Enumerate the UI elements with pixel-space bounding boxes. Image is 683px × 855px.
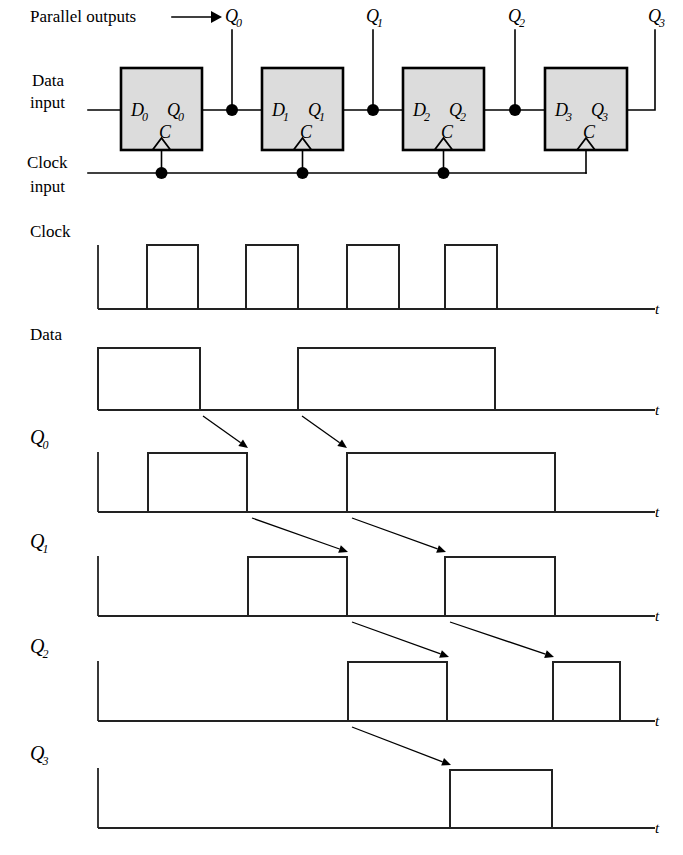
flipflop-0-d-label-subscript: 0 bbox=[142, 110, 148, 124]
waveform-q1-label: Q1 bbox=[30, 530, 48, 556]
waveform-data: Datat bbox=[30, 325, 660, 418]
output-label-q0: Q0 bbox=[225, 6, 242, 30]
output-tap-wire-3 bbox=[627, 30, 655, 110]
waveform-q0-label: Q0 bbox=[30, 426, 48, 452]
arrow-q2-to-q3-shaft bbox=[352, 727, 443, 762]
circuit-section: Parallel outputsDatainputClockinputD0Q0C… bbox=[27, 6, 665, 196]
arrow-q0-to-q1-a-head bbox=[338, 545, 348, 553]
waveform-q2-trace bbox=[98, 662, 655, 721]
arrow-data-to-q0-a-head bbox=[238, 440, 248, 448]
output-node-dot-1 bbox=[367, 104, 379, 116]
output-label-q2: Q2 bbox=[508, 6, 525, 30]
output-label-q3-subscript: 3 bbox=[658, 16, 665, 30]
waveform-q1-trace bbox=[98, 557, 655, 616]
shift-register-figure: Parallel outputsDatainputClockinputD0Q0C… bbox=[0, 0, 683, 855]
arrow-data-to-q0-b-shaft bbox=[302, 416, 340, 443]
waveform-q0-label-subscript: 0 bbox=[42, 438, 48, 452]
arrow-q0-to-q1-b-shaft bbox=[352, 518, 438, 549]
flipflop-0[interactable]: D0Q0C bbox=[121, 68, 202, 150]
arrow-q1-to-q2-a-shaft bbox=[352, 622, 441, 654]
arrow-q0-to-q1-a-shaft bbox=[252, 518, 340, 549]
flipflop-2-d-label-subscript: 2 bbox=[424, 110, 430, 124]
waveform-q0-trace bbox=[98, 453, 655, 512]
waveform-q3-label: Q3 bbox=[30, 742, 48, 768]
flipflop-1-q-label-subscript: 1 bbox=[319, 110, 325, 124]
output-label-q1: Q1 bbox=[366, 6, 383, 30]
output-label-q2-subscript: 2 bbox=[519, 16, 525, 30]
output-label-q3: Q3 bbox=[648, 6, 665, 30]
waveform-q3-trace bbox=[98, 770, 655, 828]
data-input-label-line2: input bbox=[30, 93, 65, 112]
flipflop-3-q-label-subscript: 3 bbox=[601, 110, 608, 124]
arrow-q1-to-q2-a-head bbox=[439, 650, 449, 658]
clock-node-dot-1 bbox=[297, 167, 309, 179]
clock-node-dot-0 bbox=[156, 167, 168, 179]
waveform-q2-label: Q2 bbox=[30, 635, 48, 661]
waveform-q2: Q2t bbox=[30, 635, 660, 729]
waveform-q3-label-subscript: 3 bbox=[41, 754, 48, 768]
flipflop-2-q-label-subscript: 2 bbox=[460, 110, 466, 124]
flipflop-3[interactable]: D3Q3C bbox=[545, 68, 627, 150]
flipflop-1[interactable]: D1Q1C bbox=[262, 68, 343, 150]
arrow-q1-to-q2-b-shaft bbox=[450, 622, 545, 654]
waveform-data-t-axis-label: t bbox=[655, 402, 660, 418]
output-node-dot-2 bbox=[509, 104, 521, 116]
waveform-clock-label: Clock bbox=[30, 222, 71, 241]
waveform-q0-t-axis-label: t bbox=[655, 504, 660, 520]
arrow-q2-to-q3-head bbox=[441, 758, 451, 765]
flipflop-1-d-label-subscript: 1 bbox=[283, 110, 289, 124]
waveform-q1-label-subscript: 1 bbox=[42, 542, 48, 556]
clock-node-dot-2 bbox=[438, 167, 450, 179]
flipflop-0-q-label-subscript: 0 bbox=[178, 110, 184, 124]
waveform-data-label: Data bbox=[30, 325, 63, 344]
waveform-q1: Q1t bbox=[30, 530, 660, 624]
clock-input-label-line2: input bbox=[30, 177, 65, 196]
data-input-label-line1: Data bbox=[32, 71, 65, 90]
arrow-data-to-q0-b-head bbox=[337, 440, 347, 448]
waveform-q2-label-subscript: 2 bbox=[42, 647, 48, 661]
waveform-clock-t-axis-label: t bbox=[655, 301, 660, 317]
waveform-data-trace bbox=[98, 348, 655, 410]
clock-input-label-line1: Clock bbox=[27, 153, 68, 172]
arrow-q0-to-q1-b-head bbox=[436, 545, 446, 553]
output-label-q0-subscript: 0 bbox=[236, 16, 242, 30]
waveform-q0: Q0t bbox=[30, 426, 660, 520]
arrow-data-to-q0-a-shaft bbox=[203, 416, 241, 443]
waveform-clock: Clockt bbox=[30, 222, 660, 317]
waveform-q2-t-axis-label: t bbox=[655, 713, 660, 729]
parallel-outputs-label: Parallel outputs bbox=[30, 7, 136, 26]
output-label-q1-subscript: 1 bbox=[377, 16, 383, 30]
waveform-q1-t-axis-label: t bbox=[655, 608, 660, 624]
timing-diagram-section: ClocktDatatQ0tQ1tQ2tQ3t bbox=[30, 222, 660, 836]
arrow-q1-to-q2-b-head bbox=[544, 650, 554, 658]
output-node-dot-0 bbox=[226, 104, 238, 116]
waveform-clock-trace bbox=[98, 245, 655, 309]
flipflop-2[interactable]: D2Q2C bbox=[403, 68, 484, 150]
parallel-outputs-arrow-head bbox=[211, 11, 222, 23]
waveform-q3: Q3t bbox=[30, 742, 660, 836]
flipflop-3-d-label-subscript: 3 bbox=[565, 110, 572, 124]
waveform-q3-t-axis-label: t bbox=[655, 820, 660, 836]
